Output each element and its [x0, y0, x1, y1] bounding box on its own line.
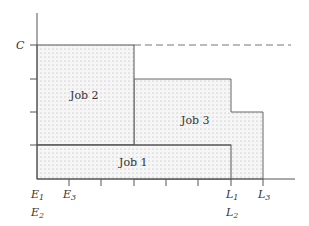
job-3-label: Job 3	[180, 114, 210, 127]
x-ticks	[69, 179, 263, 186]
label-e1: E1	[30, 188, 44, 202]
label-e2: E2	[30, 206, 44, 220]
job-1-label: Job 1	[118, 156, 148, 169]
y-axis-capacity-label: C	[16, 39, 25, 52]
label-e3: E3	[62, 188, 76, 202]
label-l1: L1	[225, 188, 238, 202]
diagram-canvas: C Job 2 Job 3 Job 1 E1 E2 E3 L1 L2 L3	[0, 0, 309, 226]
label-l3: L3	[257, 188, 270, 202]
label-l2: L2	[225, 206, 238, 220]
job-schedule-diagram: C Job 2 Job 3 Job 1 E1 E2 E3 L1 L2 L3	[0, 0, 309, 226]
job-2-label: Job 2	[69, 89, 99, 102]
